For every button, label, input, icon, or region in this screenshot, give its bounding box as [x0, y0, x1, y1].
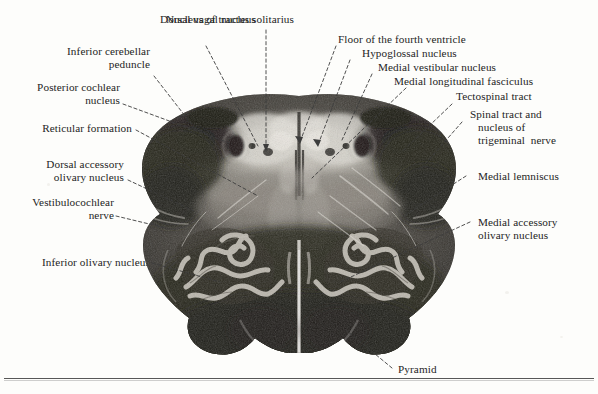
section-body	[130, 80, 470, 374]
bottom-rule	[4, 378, 594, 379]
medulla-section-photomicrograph	[0, 0, 598, 394]
figure-plate: Nucleus of tractus solitarius Inferior c…	[0, 0, 598, 394]
bottom-rule-shadow	[4, 380, 594, 381]
